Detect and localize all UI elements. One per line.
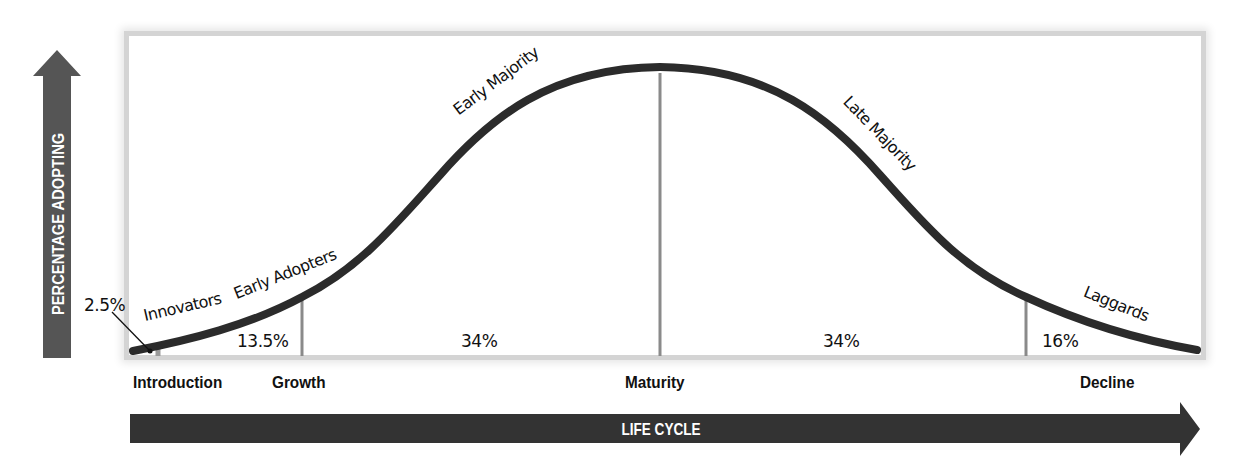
pct-laggards: 16% — [1042, 331, 1078, 351]
pct-innovators: 2.5% — [84, 295, 125, 315]
innovators-leader-dot — [148, 349, 153, 354]
x-axis-arrow: LIFE CYCLE — [130, 402, 1200, 456]
pct-early-adopters: 13.5% — [237, 331, 289, 351]
stage-decline: Decline — [1080, 373, 1134, 393]
pct-late-majority: 34% — [823, 331, 859, 351]
stage-maturity: Maturity — [625, 373, 685, 393]
pct-early-majority: 34% — [461, 331, 497, 351]
stage-growth: Growth — [272, 373, 326, 393]
stage-introduction: Introduction — [133, 373, 222, 393]
adoption-curve — [133, 67, 1197, 351]
y-axis-label: PERCENTAGE ADOPTING — [49, 133, 67, 315]
y-axis-arrow: PERCENTAGE ADOPTING — [33, 50, 81, 358]
x-axis-label: LIFE CYCLE — [621, 421, 700, 438]
adoption-diagram: PERCENTAGE ADOPTING LIFE CYCLE Innovator… — [0, 0, 1245, 472]
diagram-graphics: PERCENTAGE ADOPTING LIFE CYCLE — [0, 0, 1245, 472]
